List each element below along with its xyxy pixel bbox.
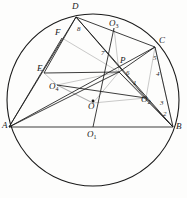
segment-A-C — [9, 47, 155, 127]
point-label-O2: O2 — [141, 95, 151, 104]
geometry-figure: A B C D E F P O O1 O2 O3 O4 1 2 3 4 5 6 … — [0, 0, 187, 198]
point-label-C: C — [159, 36, 165, 45]
angle-label-7: 7 — [101, 50, 105, 57]
point-label-D: D — [72, 2, 79, 11]
segment-E-D — [44, 17, 76, 73]
point-label-B: B — [176, 122, 182, 131]
angle-label-1: 1 — [133, 80, 137, 87]
angle-label-8: 8 — [77, 26, 81, 33]
point-label-P: P — [120, 56, 126, 65]
angle-label-3: 3 — [160, 100, 164, 107]
angle-label-5: 5 — [153, 55, 157, 62]
point-label-O1: O1 — [87, 130, 97, 139]
segment-O-O2 — [93, 98, 146, 103]
point-label-O4: O4 — [49, 82, 59, 91]
point-label-O: O — [88, 102, 95, 111]
point-label-A: A — [2, 121, 8, 130]
angle-label-6: 6 — [126, 70, 130, 77]
angle-label-2: 2 — [163, 111, 167, 118]
point-label-F: F — [55, 28, 61, 37]
point-label-E: E — [37, 64, 43, 73]
geometry-canvas — [0, 0, 187, 198]
angle-label-4: 4 — [156, 71, 160, 78]
point-label-O3: O3 — [109, 19, 119, 28]
segment-O3-O1 — [93, 28, 114, 127]
